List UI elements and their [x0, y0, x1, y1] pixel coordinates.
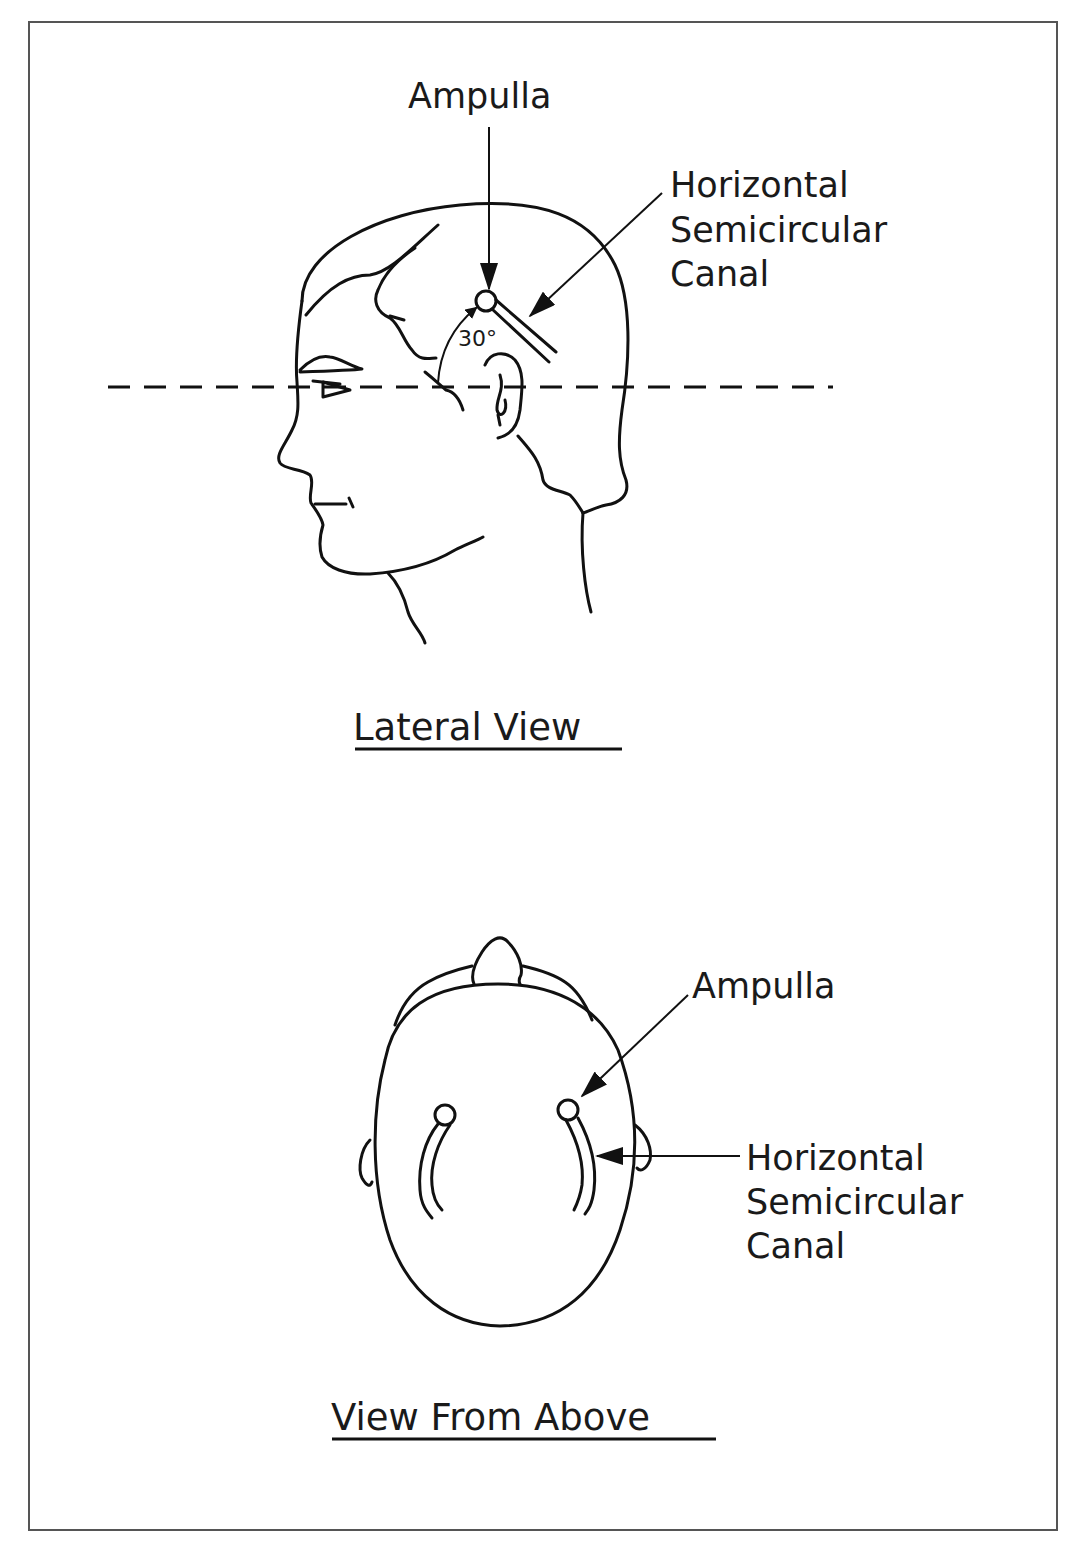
- temple-line: [425, 372, 463, 410]
- ampulla-left-circle: [435, 1105, 455, 1125]
- neck-back: [582, 513, 591, 612]
- canal-label-line1: Horizontal: [670, 165, 849, 205]
- skull-outline: [375, 984, 635, 1326]
- eyebrow: [300, 357, 362, 372]
- canal-label-line3: Canal: [670, 254, 769, 294]
- ear: [485, 354, 522, 438]
- angle-label: 30°: [458, 326, 497, 351]
- horizontal-canal-outer: [496, 300, 556, 352]
- mouth-corner: [349, 498, 353, 507]
- hairline-inner: [376, 248, 436, 359]
- canal-label-line2: Semicircular: [670, 210, 888, 250]
- diagram-figure: 30° Ampulla Horizontal Semicircular Cana…: [0, 0, 1083, 1541]
- ear-right: [635, 1125, 650, 1170]
- above-view: Ampulla Horizontal Semicircular Canal Vi…: [331, 938, 964, 1439]
- figure-frame: [29, 22, 1057, 1530]
- canal-label-above-line1: Horizontal: [746, 1138, 925, 1178]
- ampulla-right-circle: [558, 1100, 578, 1120]
- face-profile: [279, 301, 483, 574]
- ampulla-label-above: Ampulla: [692, 966, 835, 1006]
- nape-outline: [518, 436, 583, 513]
- ear-canal-mark: [498, 415, 500, 425]
- canal-left-outer: [420, 1124, 438, 1218]
- lateral-view-title: Lateral View: [353, 706, 581, 749]
- canal-label-above-line2: Semicircular: [746, 1182, 964, 1222]
- neck-front: [388, 573, 425, 643]
- eyelid: [313, 381, 340, 384]
- head-outline: [302, 203, 628, 513]
- ampulla-label: Ampulla: [408, 76, 551, 116]
- canal-label-above-line3: Canal: [746, 1226, 845, 1266]
- nose: [473, 938, 522, 984]
- hairline: [306, 225, 438, 315]
- canal-left-inner: [432, 1125, 450, 1210]
- above-view-title: View From Above: [331, 1396, 650, 1439]
- ear-inner: [497, 375, 506, 415]
- ampulla-arrow-above: [582, 995, 688, 1096]
- ear-left: [360, 1140, 372, 1185]
- lateral-view: 30° Ampulla Horizontal Semicircular Cana…: [108, 76, 888, 749]
- canal-right-inner: [566, 1120, 582, 1210]
